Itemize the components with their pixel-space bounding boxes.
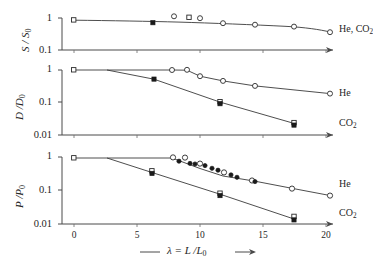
panel-d-he-point-open-circle-1	[170, 68, 175, 73]
panel-d-he-point-open-circle-3	[198, 74, 203, 79]
panel-s-series-label-he-co2: He, CO2	[339, 24, 373, 36]
panel-d-group	[58, 67, 333, 138]
panel-p-he-point-filled-circle-2	[177, 159, 181, 163]
panel-d-series-he	[72, 67, 333, 96]
x-axis-caption: λ = L /L0	[167, 245, 207, 258]
panel-s-point-open-square-3	[187, 15, 191, 19]
panel-p-he-point-open-circle-6	[197, 161, 202, 166]
panel-s-series-he-co2	[72, 14, 333, 35]
panel-d-he-point-open-square-0	[72, 68, 76, 72]
panel-p-he-point-filled-circle-11	[229, 173, 233, 177]
panel-s-ytick-label-1: 1	[32, 13, 52, 24]
panel-s-point-open-circle-4	[198, 16, 203, 21]
panel-p-series-label-he: He	[339, 179, 351, 189]
panel-s-point-open-circle-2	[172, 14, 177, 19]
panel-d-he-point-open-circle-2	[185, 67, 190, 72]
x-axis-tick-label-0: 0	[64, 231, 84, 241]
panel-p-series-he	[72, 155, 333, 198]
panel-d-curve-he	[74, 70, 330, 94]
panel-p-ytick-label-0.1: 0.1	[24, 185, 52, 196]
panel-s-point-open-circle-6	[253, 22, 258, 27]
panel-p-series-co2	[107, 158, 296, 222]
panel-s-point-filled-square-1	[151, 21, 155, 25]
panel-p-he-point-filled-circle-8	[210, 166, 214, 170]
panel-p-curve-co2	[107, 158, 294, 219]
panel-s-point-open-circle-7	[292, 24, 297, 29]
panel-p-he-point-filled-circle-7	[203, 164, 207, 168]
panel-s-group	[58, 14, 333, 53]
panel-d-he-point-open-circle-5	[253, 83, 258, 88]
panel-s-point-open-circle-8	[328, 30, 333, 35]
panel-d-he-point-open-circle-4	[221, 78, 226, 83]
panel-p-ytick-label-1: 1	[32, 151, 52, 162]
panel-d-ytick-label-1: 1	[32, 64, 52, 75]
panel-p-group	[58, 155, 333, 227]
panel-p-ytick-label-0.01: 0.01	[18, 219, 52, 230]
panel-d-co2-point-filled-square-3b	[292, 123, 296, 127]
panel-d-co2-point-filled-square-1	[152, 77, 156, 81]
panel-s-axis-title: S / S0	[20, 28, 33, 52]
panel-p-series-label-co2: CO2	[339, 208, 357, 220]
panel-d-ytick-label-0.1: 0.1	[24, 97, 52, 108]
panel-p-he-point-filled-circle-9	[216, 168, 220, 172]
panel-p-he-point-open-square-0	[72, 156, 76, 160]
panel-p-he-point-open-circle-1	[170, 155, 175, 160]
panel-p-he-point-filled-circle-14	[253, 180, 257, 184]
panel-p-he-point-filled-circle-4	[188, 161, 192, 165]
panel-p-axis-title: P /P0	[14, 185, 27, 208]
panel-p-co2-point-filled-square-3b	[292, 218, 296, 222]
panel-d-series-label-co2: CO2	[339, 118, 357, 130]
panel-p-he-point-open-circle-15	[289, 186, 294, 191]
x-axis-tick-label-5: 5	[127, 231, 147, 241]
panel-p-co2-point-filled-square-1b	[150, 171, 154, 175]
panel-d-he-point-open-circle-6	[328, 91, 333, 96]
panel-s-point-open-circle-5	[221, 21, 226, 26]
panel-p-he-point-filled-circle-5	[193, 162, 197, 166]
x-axis-tick-label-20: 20	[316, 231, 336, 241]
panel-p-he-point-filled-circle-12	[235, 175, 239, 179]
panel-d-axis-title: D /D0	[14, 94, 27, 120]
panel-p-he-point-open-circle-10	[221, 170, 226, 175]
panel-p-co2-point-filled-square-2b	[218, 194, 222, 198]
panel-s-point-open-square-0	[72, 18, 76, 22]
panel-d-ytick-label-0.01: 0.01	[18, 130, 52, 141]
panel-p-he-point-open-circle-3	[182, 155, 187, 160]
x-axis-tick-label-15: 15	[253, 231, 273, 241]
panel-d-co2-point-filled-square-2b	[218, 102, 222, 106]
panel-p-he-point-open-circle-16	[327, 193, 332, 198]
x-axis-tick-label-10: 10	[190, 231, 210, 241]
panel-d-series-label-he: He	[339, 88, 351, 98]
